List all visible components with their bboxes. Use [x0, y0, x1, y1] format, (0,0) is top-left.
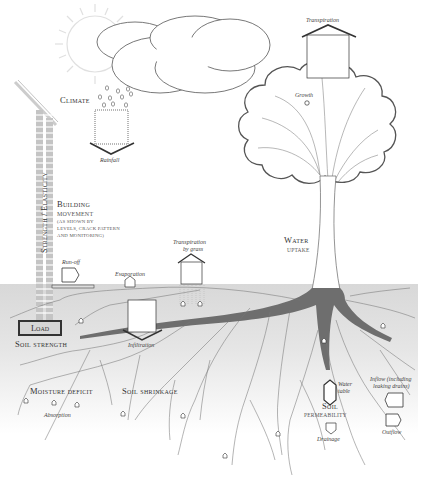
label-climate: Climate [60, 96, 90, 105]
label-soil-strength: Soil strength [15, 340, 67, 349]
label-building-movement-1: Building [57, 200, 90, 209]
label-building-movement-note-3: and monitoring) [57, 234, 104, 239]
evaporation-arrow-icon [125, 276, 135, 287]
label-inflow-1: Inflow (including [370, 376, 412, 382]
growth-point-icon [305, 101, 309, 105]
label-water-table-2: table [338, 388, 350, 394]
label-outflow: Outflow [382, 429, 401, 435]
label-soil-permeability-2: permeability [304, 413, 347, 419]
cloud-icon [97, 16, 270, 93]
label-growth: Growth [295, 92, 313, 98]
diagram-canvas: Climate Rainfall Transpiration Growth St… [0, 0, 429, 483]
label-moisture-deficit: Moisture deficit [30, 387, 93, 396]
label-load: Load [31, 323, 49, 333]
label-evaporation: Evaporation [115, 271, 145, 277]
label-rainfall: Rainfall [100, 157, 119, 163]
label-water-table-1: Water [338, 381, 352, 387]
label-transpiration-by-grass-1: Transpiration [173, 239, 206, 245]
label-soil-permeability-1: Soil [322, 402, 338, 411]
diagram-illustration [0, 0, 429, 483]
outflow-arrow-icon [386, 414, 401, 426]
transpiration-arrow-icon [302, 25, 356, 78]
rainfall-arrow-icon [90, 110, 134, 154]
label-soil-shrinkage: Soil shrinkage [122, 387, 178, 396]
label-building-movement-note-2: levels, crack pattern [57, 227, 120, 232]
label-infiltration: Infiltration [128, 342, 154, 348]
label-absorption: Absorption [44, 412, 71, 418]
inflow-arrow-icon [385, 393, 403, 407]
label-water-uptake-2: uptake [287, 248, 309, 254]
raindrop-icon [98, 86, 132, 107]
label-building-movement-2: movement [57, 211, 93, 217]
label-drainage: Drainage [317, 436, 340, 442]
label-building-movement-note-1: (as shown by [57, 220, 94, 225]
label-water-uptake-1: Water [284, 236, 309, 245]
label-transpiration-by-grass-2: by grass [183, 246, 203, 252]
label-run-off: Run-off [62, 259, 80, 265]
load-box: Load [18, 320, 62, 336]
label-transpiration: Transpiration [306, 17, 339, 23]
tree-icon [239, 63, 396, 290]
label-inflow-2: leaking drains) [373, 383, 410, 389]
label-strength-elasticity: Strength / Elasticity [40, 172, 49, 253]
run-off-arrow-icon [62, 268, 79, 282]
